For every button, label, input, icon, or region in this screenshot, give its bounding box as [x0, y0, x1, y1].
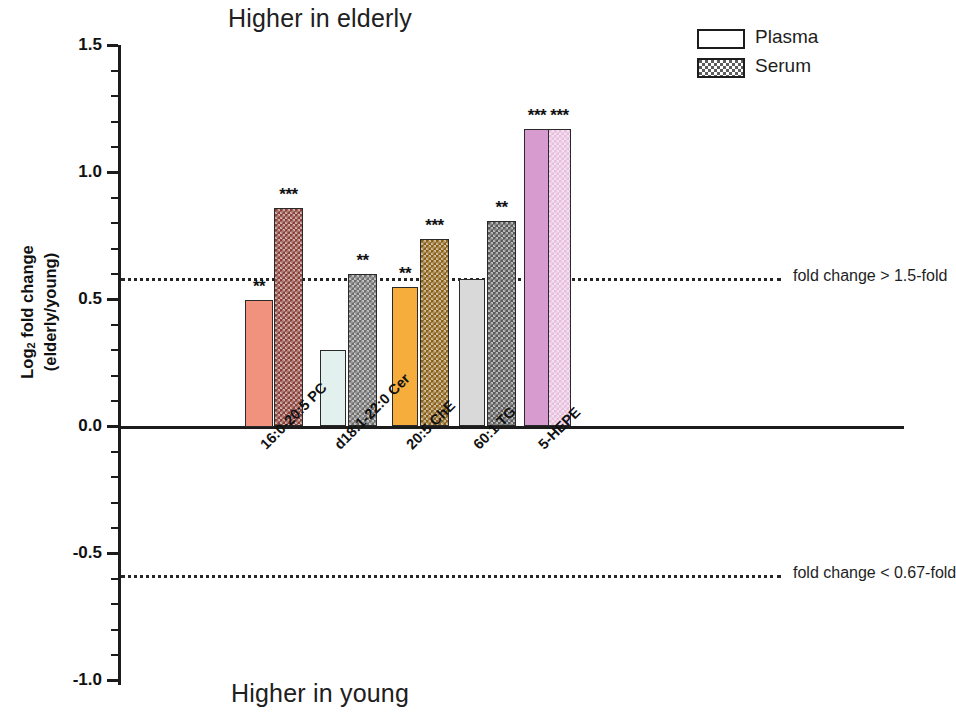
significance-marker: **	[480, 198, 524, 218]
significance-marker: ***	[267, 185, 311, 205]
significance-marker: ***	[538, 106, 582, 126]
chart-legend: Plasma Serum	[697, 26, 897, 84]
bar-plasma	[245, 300, 273, 427]
legend-swatch-serum	[697, 58, 745, 78]
legend-label-serum: Serum	[755, 55, 811, 77]
significance-marker: ***	[413, 216, 457, 236]
bar-serum	[274, 208, 303, 426]
significance-marker: **	[237, 277, 281, 297]
bar-plasma	[459, 279, 485, 426]
bar-serum	[548, 129, 571, 426]
significance-marker: **	[383, 264, 427, 284]
bar-serum	[487, 221, 516, 427]
legend-item-plasma: Plasma	[697, 26, 897, 55]
significance-marker: **	[341, 251, 385, 271]
legend-label-plasma: Plasma	[755, 26, 818, 48]
legend-swatch-plasma	[697, 29, 745, 49]
legend-item-serum: Serum	[697, 55, 897, 84]
bar-plasma	[524, 129, 550, 426]
bar-plasma	[392, 287, 418, 427]
